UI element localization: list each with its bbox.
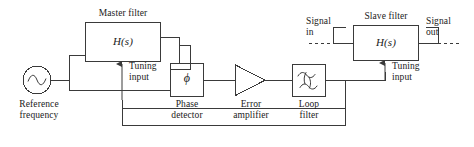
- signal-out-label: Signal out: [426, 16, 470, 38]
- reference-source-caption: Reference frequency: [8, 99, 70, 121]
- slave-filter-tuning-label: Tuning input: [392, 61, 440, 83]
- master-filter-symbol: H(s): [84, 36, 162, 47]
- slave-filter-caption: Slave filter: [348, 11, 424, 22]
- phase-detector-symbol: ϕ: [170, 73, 204, 84]
- loop-filter-curve-icon: [298, 72, 317, 89]
- phase-detector-caption: Phase detector: [160, 99, 214, 121]
- error-amplifier-caption: Error amplifier: [222, 99, 280, 121]
- block-diagram: Master filter H(s) Tuning input Slave fi…: [0, 0, 474, 147]
- error-amplifier-triangle: [236, 65, 266, 96]
- loop-filter-box: [293, 65, 326, 97]
- master-filter-tuning-label: Tuning input: [129, 61, 175, 83]
- signal-in-label: Signal in: [306, 16, 346, 38]
- master-filter-caption: Master filter: [84, 8, 162, 19]
- slave-filter-symbol: H(s): [353, 37, 419, 48]
- loop-filter-caption: Loop filter: [286, 99, 332, 121]
- sine-wave-icon: [28, 75, 46, 84]
